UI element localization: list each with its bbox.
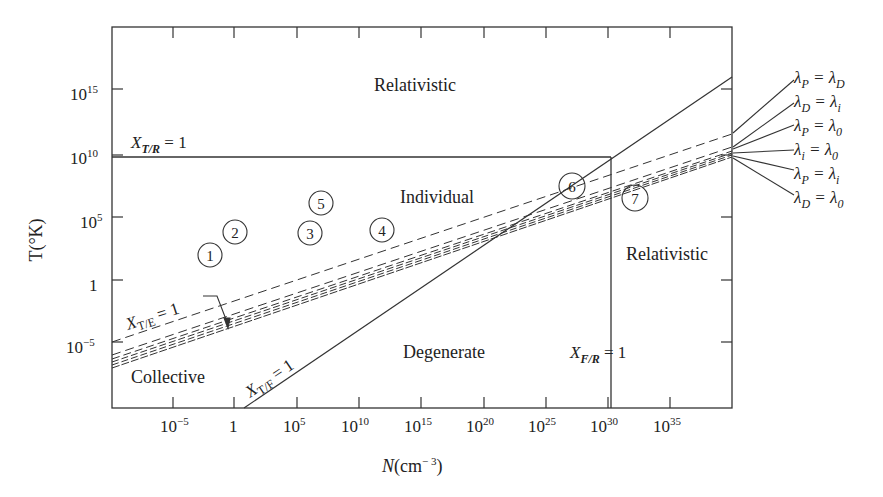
svg-text:λP = λD: λP = λD — [793, 68, 845, 91]
svg-text:105: 105 — [80, 211, 103, 232]
x-tick-labels: 10−5 1 105 1010 1015 1020 1025 1030 1035 — [160, 415, 682, 436]
svg-text:3: 3 — [306, 226, 314, 242]
region-degenerate: Degenerate — [403, 342, 485, 362]
svg-text:λD = λi: λD = λi — [793, 92, 841, 115]
region-collective: Collective — [131, 367, 205, 387]
svg-text:λD = λ0: λD = λ0 — [793, 188, 843, 211]
svg-text:1015: 1015 — [404, 415, 433, 436]
svg-text:1020: 1020 — [466, 415, 495, 436]
svg-text:2: 2 — [231, 225, 239, 241]
xte-label: XT/E = 1 — [122, 299, 182, 337]
svg-text:10−5: 10−5 — [160, 415, 189, 436]
y-axis-title: T(°K) — [26, 218, 47, 261]
legend: λP = λD λD = λi λP = λ0 λi = λ0 λP = λi … — [793, 68, 845, 211]
svg-text:1: 1 — [229, 417, 238, 436]
top-ticks — [173, 27, 670, 38]
bottom-ticks — [173, 397, 670, 408]
svg-text:1: 1 — [206, 248, 214, 264]
svg-text:7: 7 — [631, 191, 639, 207]
svg-text:1010: 1010 — [341, 415, 370, 436]
svg-text:1015: 1015 — [70, 83, 99, 104]
left-ticks — [112, 89, 123, 342]
region-individual: Individual — [400, 187, 474, 207]
lambdaP-eq-lambdaD-line — [112, 134, 732, 342]
svg-text:6: 6 — [568, 179, 576, 195]
svg-text:λi = λ0: λi = λ0 — [793, 140, 838, 163]
y-tick-labels: 1015 1010 105 1 10−5 — [66, 83, 103, 357]
svg-text:1035: 1035 — [653, 415, 682, 436]
svg-text:1: 1 — [89, 276, 98, 295]
svg-text:1025: 1025 — [528, 415, 557, 436]
svg-text:10−5: 10−5 — [66, 336, 95, 357]
svg-text:4: 4 — [378, 223, 386, 239]
plasma-parameter-chart: 10−5 1 105 1010 1015 1020 1025 1030 1035… — [0, 0, 883, 497]
xfr-label: XF/R = 1 — [569, 343, 626, 366]
region-relativistic-top: Relativistic — [374, 75, 456, 95]
svg-text:1030: 1030 — [590, 415, 619, 436]
svg-text:λP = λ0: λP = λ0 — [793, 116, 842, 139]
svg-text:λP = λi: λP = λi — [793, 164, 839, 187]
legend-connectors — [733, 80, 794, 195]
svg-text:105: 105 — [283, 415, 306, 436]
region-relativistic-right: Relativistic — [626, 244, 708, 264]
xtf-label: XT/F = 1 — [241, 355, 299, 404]
xtr-label: XT/R = 1 — [130, 133, 187, 156]
x-axis-title: N(cm− 3) — [381, 455, 442, 477]
right-ticks — [721, 89, 732, 342]
svg-text:5: 5 — [317, 196, 325, 212]
svg-text:1010: 1010 — [70, 147, 99, 168]
